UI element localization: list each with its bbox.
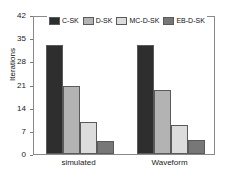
bar-d-sk-waveform — [154, 90, 171, 154]
legend-swatch-icon — [116, 17, 127, 25]
x-tick-label: Waveform — [151, 158, 187, 167]
bar-mc-d-sk-waveform — [171, 125, 188, 154]
y-tick-label: 7 — [22, 128, 26, 136]
legend-entry-c-sk[interactable]: C-SK — [49, 17, 79, 25]
x-tick-label: simulated — [61, 158, 95, 167]
plot-area — [33, 16, 215, 155]
legend-label: C-SK — [62, 17, 79, 24]
legend-label: MC-D-SK — [129, 17, 159, 24]
bar-c-sk-simulated — [46, 45, 63, 154]
bar-chart-figure: Iterations 071421283542 simulatedWavefor… — [0, 0, 234, 181]
bar-eb-d-sk-waveform — [188, 140, 205, 154]
y-tick-label: 42 — [17, 12, 26, 20]
y-tick-label: 0 — [22, 151, 26, 159]
y-tick-mark — [30, 155, 33, 156]
bars-layer — [34, 17, 214, 154]
y-tick-label: 21 — [17, 82, 26, 90]
legend-entry-d-sk[interactable]: D-SK — [83, 17, 113, 25]
y-tick-label: 35 — [17, 35, 26, 43]
legend-label: D-SK — [96, 17, 113, 24]
bar-eb-d-sk-simulated — [97, 141, 114, 154]
x-axis-tick-labels: simulatedWaveform — [33, 158, 215, 172]
y-tick-label: 14 — [17, 105, 26, 113]
legend-swatch-icon — [163, 17, 174, 25]
bar-d-sk-simulated — [63, 86, 80, 154]
y-axis-tick-labels: 071421283542 — [0, 16, 30, 155]
y-tick-label: 28 — [17, 58, 26, 66]
bar-c-sk-waveform — [137, 45, 154, 154]
legend-swatch-icon — [83, 17, 94, 25]
legend-label: EB-D-SK — [176, 17, 204, 24]
bar-mc-d-sk-simulated — [80, 122, 97, 154]
legend-swatch-icon — [49, 17, 60, 25]
legend-entry-mc-d-sk[interactable]: MC-D-SK — [116, 17, 159, 25]
chart-legend: C-SKD-SKMC-D-SKEB-D-SK — [47, 14, 207, 27]
legend-entry-eb-d-sk[interactable]: EB-D-SK — [163, 17, 204, 25]
